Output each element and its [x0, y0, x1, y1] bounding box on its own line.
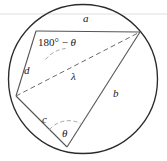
- label-side-c: c: [42, 114, 47, 125]
- diagonal-lambda-line: [16, 32, 140, 96]
- label-angle-supplement: 180° − θ: [38, 37, 76, 48]
- geometry-figure: a b c d λ θ 180° − θ: [0, 0, 167, 161]
- side-b-line: [67, 32, 140, 147]
- circle-outline: [9, 5, 158, 154]
- label-side-b: b: [113, 88, 119, 99]
- label-side-a: a: [83, 13, 89, 24]
- figure-canvas: [0, 0, 167, 161]
- angle-arc-supplement: [46, 49, 66, 60]
- label-angle-supplement-prefix: 180° −: [38, 36, 71, 48]
- side-a-line: [36, 31, 140, 32]
- label-side-d: d: [24, 65, 30, 76]
- label-angle-theta: θ: [62, 128, 67, 139]
- label-diagonal-lambda: λ: [71, 71, 76, 82]
- label-angle-supplement-symbol: θ: [71, 36, 76, 48]
